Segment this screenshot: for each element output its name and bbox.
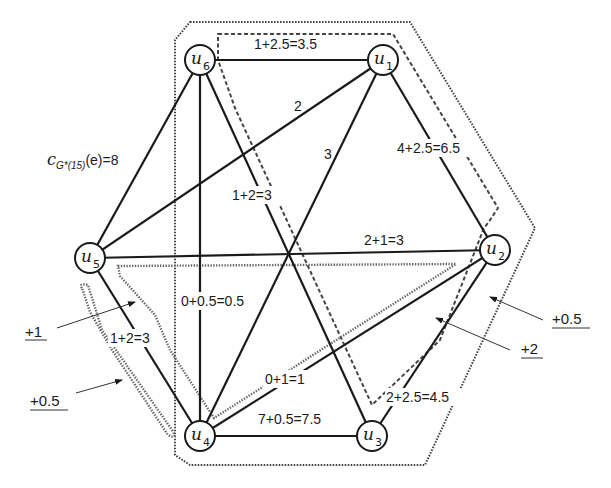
left-loop-cut xyxy=(81,284,174,436)
node-u6: u 6 xyxy=(185,45,215,75)
middle-cut-boundary xyxy=(218,34,498,405)
annotation-plus05-left: +0.5 xyxy=(30,392,60,409)
svg-text:u: u xyxy=(374,48,385,68)
svg-text:5: 5 xyxy=(93,258,100,271)
edge-u5-u2 xyxy=(90,250,495,258)
edge-label-u6-u4: 0+0.5=0.5 xyxy=(181,293,244,309)
svg-text:4: 4 xyxy=(203,436,210,449)
svg-text:u: u xyxy=(486,238,497,258)
svg-text:3: 3 xyxy=(375,436,382,449)
edge-label-u1-u4: 3 xyxy=(324,146,332,162)
edge-label-u5-u2: 2+1=3 xyxy=(364,232,404,248)
annotation-plus05-right: +0.5 xyxy=(552,310,582,327)
formula-label: cG*(15)(e)=8 xyxy=(47,150,119,171)
svg-text:u: u xyxy=(191,424,202,444)
svg-text:u: u xyxy=(81,246,92,266)
edge-label-u6-u1: 1+2.5=3.5 xyxy=(254,36,317,52)
node-u2: u 2 xyxy=(480,235,510,265)
svg-text:1: 1 xyxy=(386,60,393,73)
edge-label-u3-u4: 7+0.5=7.5 xyxy=(258,411,321,427)
annotation-plus2-right: +2 xyxy=(521,340,538,357)
edge-label-u1-u2: 4+2.5=6.5 xyxy=(397,140,460,156)
node-u4: u 4 xyxy=(185,421,215,451)
edge-u5-u1 xyxy=(90,60,383,258)
edge-label-u4-u2: 0+1=1 xyxy=(265,371,305,387)
edge-labels: 1+2.5=3.5 4+2.5=6.5 2+2.5=4.5 7+0.5=7.5 … xyxy=(47,36,478,427)
svg-text:2: 2 xyxy=(498,250,505,263)
svg-text:u: u xyxy=(363,424,374,444)
node-u5: u 5 xyxy=(75,243,105,273)
edge-label-u5-u1: 2 xyxy=(294,98,302,114)
edge-label-u2-u3: 2+2.5=4.5 xyxy=(386,389,449,405)
edge-label-u6-u3: 1+2=3 xyxy=(232,187,272,203)
graph-diagram: 1+2.5=3.5 4+2.5=6.5 2+2.5=4.5 7+0.5=7.5 … xyxy=(0,0,611,488)
node-u3: u 3 xyxy=(357,421,387,451)
svg-text:u: u xyxy=(191,48,202,68)
edge-label-u4-u5: 1+2=3 xyxy=(110,330,150,346)
node-u1: u 1 xyxy=(368,45,398,75)
annotations: +1 +0.5 +0.5 +2 xyxy=(25,297,590,410)
svg-text:6: 6 xyxy=(203,60,210,73)
annotation-plus1-left: +1 xyxy=(25,323,42,340)
